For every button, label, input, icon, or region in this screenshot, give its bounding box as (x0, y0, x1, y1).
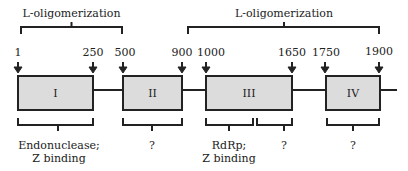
top-bracket-right-label: L-oligomerization (235, 7, 333, 20)
domain-diagram: L-oligomerization L-oligomerization 1 25… (0, 0, 408, 171)
down-arrow-icon (89, 62, 97, 73)
domain-label: II (148, 87, 157, 100)
top-bracket-left-label: L-oligomerization (22, 7, 120, 20)
bottom-bracket (206, 118, 253, 131)
bottom-bracket (18, 118, 93, 131)
function-label: RdRp; (212, 139, 246, 152)
domain-label: IV (347, 87, 360, 100)
top-bracket-left (21, 22, 122, 34)
function-label: Endonuclease; (18, 139, 100, 152)
position-label: 1750 (312, 46, 340, 59)
position-label: 900 (172, 46, 193, 59)
domain-box-IV: IV (326, 76, 380, 110)
down-arrow-icon (288, 62, 296, 73)
down-arrow-icon (375, 62, 383, 73)
position-label: 1 (15, 46, 22, 59)
function-label: Z binding (32, 152, 85, 165)
bottom-bracket (123, 118, 182, 131)
function-label: Z binding (202, 152, 255, 165)
down-arrow-icon (14, 62, 22, 73)
domain-box-I: I (18, 76, 93, 110)
bottom-bracket (257, 118, 292, 131)
down-arrow-icon (178, 62, 186, 73)
position-label: 1000 (197, 46, 225, 59)
down-arrow-icon (119, 62, 127, 73)
position-label: 250 (83, 46, 104, 59)
down-arrow-icon (321, 62, 329, 73)
down-arrow-icon (202, 62, 210, 73)
bottom-bracket (327, 118, 379, 131)
domain-box-III: III (206, 76, 292, 110)
position-label: 1900 (365, 45, 393, 58)
position-label: 500 (115, 46, 136, 59)
function-label: ? (281, 139, 287, 152)
position-label: 1650 (278, 46, 306, 59)
domain-box-II: II (123, 76, 182, 110)
function-label: ? (149, 139, 155, 152)
top-bracket-right (188, 22, 379, 34)
domain-label: III (242, 87, 255, 100)
domain-label: I (53, 87, 57, 100)
function-label: ? (350, 139, 356, 152)
